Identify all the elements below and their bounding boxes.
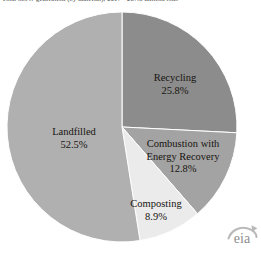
pie-chart-figure: Total MSW generation (by material), 2017… (0, 0, 261, 259)
pie-label-recycling: Recycling 25.8% (136, 72, 214, 97)
pie-label-composting-value: 8.9% (117, 211, 195, 224)
pie-label-combustion: Combustion with Energy Recovery 12.8% (133, 138, 233, 176)
pie-label-landfilled-name: Landfilled (35, 126, 113, 139)
pie-label-combustion-name-line1: Combustion with (133, 138, 233, 151)
pie-label-landfilled-value: 52.5% (35, 139, 113, 152)
pie-label-composting: Composting 8.9% (117, 198, 195, 223)
eia-logo-text: eia (225, 231, 259, 246)
pie-label-recycling-value: 25.8% (136, 85, 214, 98)
pie-label-combustion-name-line2: Energy Recovery (133, 151, 233, 164)
pie-label-composting-name: Composting (117, 198, 195, 211)
pie-label-combustion-value: 12.8% (133, 163, 233, 176)
pie-label-recycling-name: Recycling (136, 72, 214, 85)
eia-logo: eia (225, 222, 259, 252)
pie-label-landfilled: Landfilled 52.5% (35, 126, 113, 151)
